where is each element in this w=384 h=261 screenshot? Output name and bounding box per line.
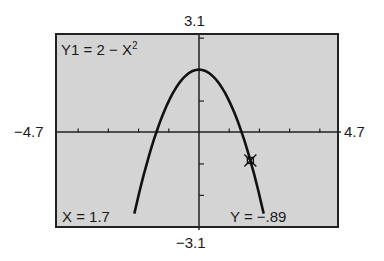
graph-canvas [57, 35, 341, 230]
xmin-label: −4.7 [14, 124, 44, 139]
equation-label: Y1 = 2 − X2 [61, 38, 137, 57]
ymin-label: −3.1 [176, 235, 206, 250]
y-readout: Y = −.89 [230, 209, 286, 224]
ymax-label: 3.1 [184, 13, 205, 28]
equation-text: Y1 = 2 − X [61, 41, 132, 58]
xmax-label: 4.7 [344, 124, 365, 139]
equation-exponent: 2 [132, 40, 138, 51]
x-readout: X = 1.7 [62, 209, 110, 224]
graph-screen: Y1 = 2 − X2 X = 1.7 Y = −.89 [55, 33, 339, 228]
